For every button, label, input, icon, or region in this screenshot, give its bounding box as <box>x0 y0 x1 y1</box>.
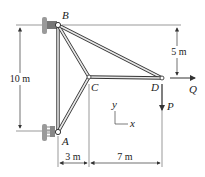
dimension-label-10m: 10 m <box>10 73 31 84</box>
joint-B <box>55 22 60 27</box>
member-AC <box>58 77 89 132</box>
axes-indicator: y x <box>111 98 135 129</box>
load-Q: Q <box>170 78 197 95</box>
dimension-label-7m: 7 m <box>117 151 133 162</box>
label-Q: Q <box>189 83 197 95</box>
axis-label-y: y <box>111 98 117 110</box>
dimension-7m: 7 m <box>91 151 160 163</box>
label-A: A <box>61 135 69 147</box>
label-D: D <box>150 81 159 93</box>
load-P: P <box>162 84 174 112</box>
joint-C <box>87 75 91 79</box>
support-A <box>42 124 55 141</box>
label-C: C <box>91 81 99 93</box>
dimension-label-5m: 5 m <box>171 46 187 57</box>
axis-label-x: x <box>129 117 135 129</box>
label-B: B <box>62 9 69 21</box>
members <box>58 25 162 132</box>
dimension-10m: 10 m <box>8 28 32 128</box>
dimension-label-3m: 3 m <box>65 151 81 162</box>
joint-A <box>55 129 60 134</box>
joint-D <box>160 76 164 80</box>
member-CD <box>89 77 162 78</box>
label-P: P <box>166 100 174 112</box>
support-B <box>42 17 57 34</box>
truss-diagram: 10 m 5 m 3 m 7 m <box>0 0 205 177</box>
dimension-3m: 3 m <box>60 151 87 163</box>
dimension-5m: 5 m <box>169 28 189 75</box>
